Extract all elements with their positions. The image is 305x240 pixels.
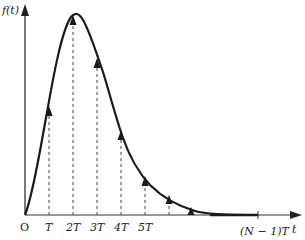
tick-label-3T: 3T [90,221,106,234]
tick-label-5T: 5T [138,221,154,234]
sample-arrows [46,15,195,215]
tick-label-4T: 4T [113,221,130,234]
x-axis [25,211,302,219]
tick-label-T: T [45,221,54,234]
x-axis-label: t [292,223,297,236]
tick-label-2T: 2T [65,221,82,234]
y-axis-arrow-icon [21,4,29,16]
origin-label: O [20,221,29,234]
y-axis-label: f(t) [1,4,19,17]
tick-label-end: (N − 1)T [240,225,290,238]
y-axis [21,4,29,215]
sample-arrow-icon [118,130,125,140]
function-curve [25,14,258,215]
x-axis-arrow-icon [290,211,302,219]
sampled-function-diagram: f(t) t O T 2T 3T 4T 5T (N − 1)T [0,0,305,240]
